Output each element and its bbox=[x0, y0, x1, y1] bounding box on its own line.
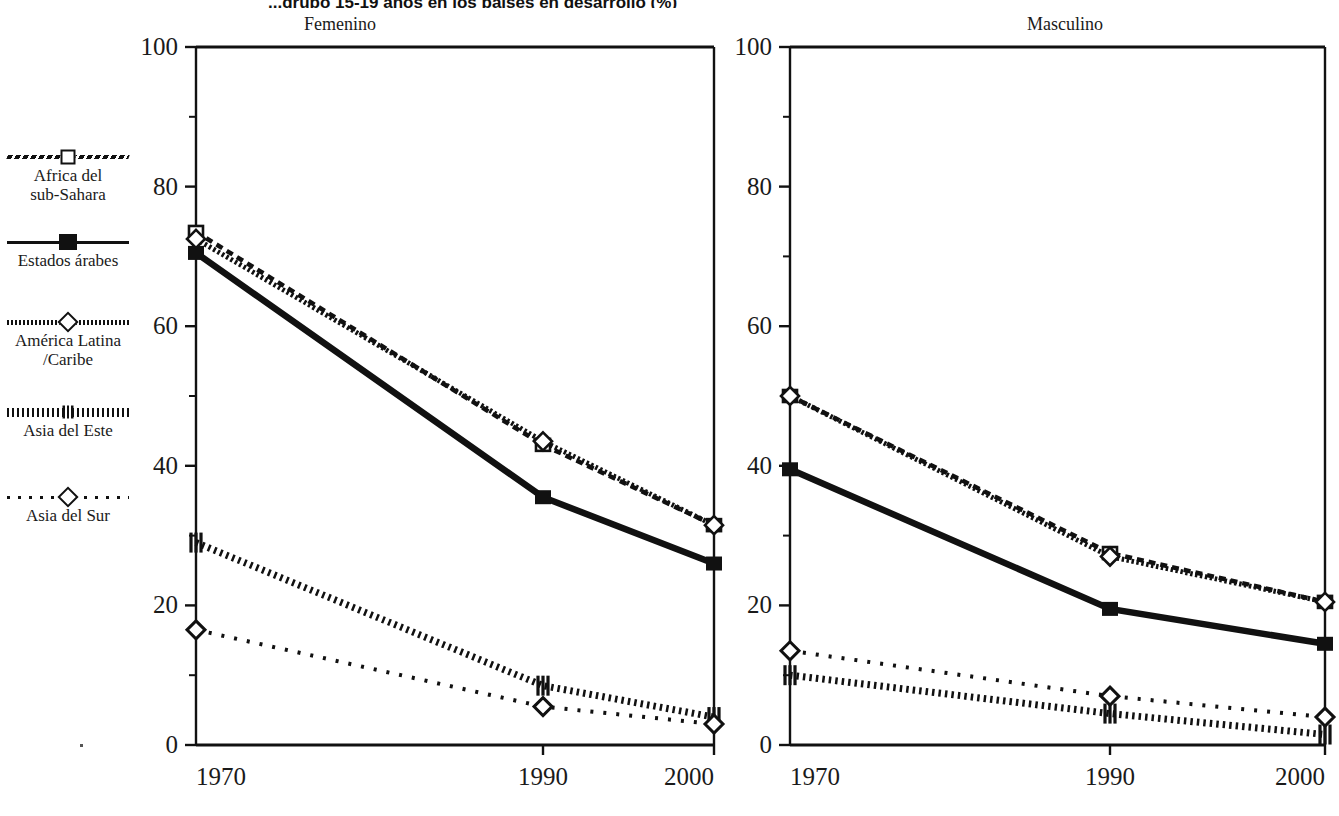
svg-text:40: 40 bbox=[747, 452, 772, 479]
svg-text:60: 60 bbox=[747, 312, 772, 339]
stray-mark bbox=[80, 744, 83, 747]
svg-text:1970: 1970 bbox=[790, 763, 840, 790]
panel-masculino: Masculino 020406080100197019902000 bbox=[0, 0, 1339, 816]
svg-text:0: 0 bbox=[760, 731, 773, 758]
svg-text:80: 80 bbox=[747, 173, 772, 200]
svg-text:2000: 2000 bbox=[1275, 763, 1325, 790]
svg-text:20: 20 bbox=[747, 591, 772, 618]
svg-text:100: 100 bbox=[735, 33, 773, 60]
plot-area-masculino: 020406080100197019902000 bbox=[0, 0, 1339, 816]
svg-text:1990: 1990 bbox=[1085, 763, 1135, 790]
